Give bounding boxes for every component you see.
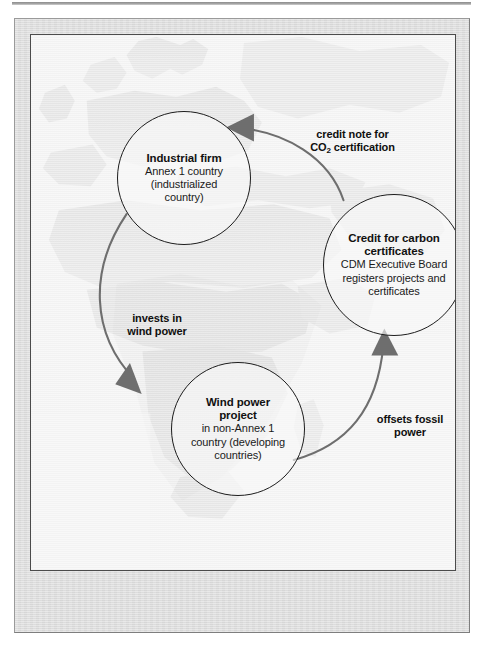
figure-plate: Industrial firm Annex 1 country (industr… [14, 18, 470, 633]
node-credit-subtitle-line-1: CDM Executive Board [341, 258, 447, 271]
edge-label-offsets-line-1: offsets fossil [347, 413, 456, 426]
arrowhead-invests [114, 361, 147, 394]
node-industrial-firm-subtitle-line-1: Annex 1 country [145, 165, 223, 178]
edge-label-invests-line-2: wind power [91, 325, 223, 338]
node-industrial-firm[interactable]: Industrial firm Annex 1 country (industr… [117, 111, 251, 245]
certification-text: certification [331, 141, 395, 153]
node-wind-subtitle-line-2: country (developing [191, 436, 285, 449]
edge-label-credit-note-line-1: credit note for [280, 128, 425, 141]
node-wind-subtitle-line-3: countries) [214, 449, 261, 462]
edge-label-offsets: offsets fossil power [347, 413, 456, 440]
diagram-canvas: Industrial firm Annex 1 country (industr… [30, 34, 456, 571]
node-wind-power-project[interactable]: Wind power project in non-Annex 1 countr… [171, 362, 305, 496]
edge-label-offsets-line-2: power [347, 426, 456, 439]
node-wind-subtitle-line-1: in non-Annex 1 [202, 422, 275, 435]
co2-formula-text: CO [310, 141, 326, 153]
edge-invests-path [100, 214, 135, 379]
edge-offsets-path [294, 346, 384, 460]
node-credit-subtitle-line-2: registers projects and [343, 272, 446, 285]
edge-label-credit-note-line-2: CO2 certification [280, 141, 425, 155]
node-credit-subtitle-line-3: certificates [368, 285, 419, 298]
edge-label-invests: invests in wind power [91, 312, 223, 339]
node-credit-for-carbon-certificates[interactable]: Credit for carbon certificates CDM Execu… [323, 194, 456, 336]
node-industrial-firm-title: Industrial firm [146, 152, 221, 165]
edge-label-invests-line-1: invests in [91, 312, 223, 325]
edge-label-credit-note: credit note for CO2 certification [280, 128, 425, 156]
node-wind-title-line-1: Wind power [206, 396, 270, 409]
node-credit-title-line-2: certificates [364, 245, 424, 258]
figure-caption [16, 636, 456, 645]
node-industrial-firm-subtitle-line-2: (industrialized [151, 178, 217, 191]
top-rule [12, 2, 471, 5]
node-credit-title-line-1: Credit for carbon [348, 232, 440, 245]
node-wind-title-line-2: project [219, 409, 257, 422]
co2-subscript: 2 [326, 146, 330, 155]
node-industrial-firm-subtitle-line-3: country) [165, 191, 204, 204]
